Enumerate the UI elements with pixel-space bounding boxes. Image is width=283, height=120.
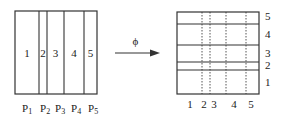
partition-label-p4: P4 (71, 102, 81, 116)
diagram-canvas: 12345P1P2P3P4P5 ϕ 5432112345 (0, 0, 283, 120)
right-bottom-label: 5 (248, 98, 254, 110)
right-side-label: 2 (265, 59, 271, 71)
left-region-label: 2 (40, 47, 46, 59)
mapping-arrow: ϕ (115, 35, 160, 57)
right-side-label: 5 (265, 10, 271, 22)
partition-label-p1: P1 (22, 102, 32, 116)
partition-label-p5: P5 (88, 102, 98, 116)
right-bottom-label: 4 (231, 98, 237, 110)
right-side-label: 4 (265, 28, 271, 40)
right-bottom-label: 2 (201, 98, 207, 110)
partition-label-p3: P3 (55, 102, 65, 116)
right-bottom-label: 3 (211, 98, 217, 110)
phi-label: ϕ (133, 35, 139, 47)
right-side-label: 1 (265, 76, 271, 88)
left-region-label: 3 (53, 47, 59, 59)
right-partition-box: 5432112345 (177, 10, 271, 110)
right-side-label: 3 (265, 47, 271, 59)
left-partition-box: 12345P1P2P3P4P5 (15, 11, 98, 116)
left-region-label: 4 (71, 47, 77, 59)
arrow-head-icon (150, 50, 160, 57)
partition-label-p2: P2 (40, 102, 50, 116)
left-region-label: 5 (88, 47, 94, 59)
right-bottom-label: 1 (187, 98, 193, 110)
left-region-label: 1 (24, 47, 30, 59)
